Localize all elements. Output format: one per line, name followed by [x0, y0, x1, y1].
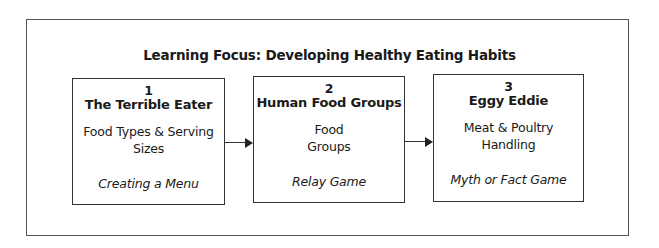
step-box-2: 2 Human Food Groups Food Groups Relay Ga…: [253, 76, 405, 203]
step-topic-line: Food Types & Serving: [77, 123, 220, 140]
step-activity: Myth or Fact Game: [434, 172, 583, 187]
arrow-head-icon: [425, 137, 433, 147]
step-activity: Relay Game: [254, 174, 404, 189]
arrow-head-icon: [245, 138, 253, 148]
arrow-2-to-3: [405, 137, 433, 147]
arrow-line: [405, 141, 427, 142]
arrow-1-to-2: [225, 138, 253, 148]
diagram-title: Learning Focus: Developing Healthy Eatin…: [0, 47, 659, 63]
step-topic-line: Groups: [258, 138, 400, 155]
step-topic-line: Food: [258, 121, 400, 138]
arrow-line: [225, 142, 247, 143]
step-topic: Food Groups: [258, 121, 400, 155]
step-activity: Creating a Menu: [73, 176, 224, 191]
step-box-3: 3 Eggy Eddie Meat & Poultry Handling Myt…: [433, 74, 584, 202]
step-number: 3: [434, 79, 583, 94]
step-number: 1: [73, 83, 224, 98]
step-name: The Terrible Eater: [73, 97, 224, 112]
step-topic: Food Types & Serving Sizes: [77, 123, 220, 157]
step-number: 2: [254, 81, 404, 96]
step-topic-line: Sizes: [77, 140, 220, 157]
step-name: Human Food Groups: [254, 95, 404, 110]
step-topic-line: Meat & Poultry: [438, 119, 579, 136]
step-topic-line: Handling: [438, 136, 579, 153]
step-box-1: 1 The Terrible Eater Food Types & Servin…: [72, 78, 225, 205]
step-name: Eggy Eddie: [434, 93, 583, 108]
step-topic: Meat & Poultry Handling: [438, 119, 579, 153]
